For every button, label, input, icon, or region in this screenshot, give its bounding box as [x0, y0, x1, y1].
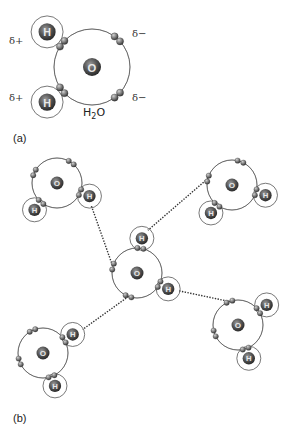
charge-label-h-bottom: δ+ — [9, 92, 23, 103]
electron — [155, 284, 160, 289]
electron — [205, 179, 210, 184]
panel-label-a: (a) — [13, 132, 26, 144]
electron — [71, 162, 76, 167]
water-molecule: OHH — [16, 322, 85, 397]
formula-o: O — [96, 106, 105, 119]
electron — [123, 293, 128, 298]
electron — [61, 90, 68, 97]
panel-label-b: (b) — [13, 412, 26, 424]
water-molecule: OHH — [199, 158, 278, 225]
hydrogen-bond-dotted-line — [91, 206, 112, 266]
oxygen-symbol: O — [134, 269, 140, 278]
electron — [212, 200, 217, 205]
electron — [254, 187, 259, 192]
electron — [158, 279, 163, 284]
oxygen-symbol: O — [229, 181, 235, 190]
electron — [33, 327, 38, 332]
water-molecule: OHH — [31, 16, 130, 118]
hydrogen-symbol: H — [32, 206, 38, 215]
electron — [52, 373, 57, 378]
hydrogen-symbol: H — [263, 191, 269, 200]
electron — [56, 84, 63, 91]
water-molecule: OHH — [23, 158, 102, 222]
charge-label-h-top: δ+ — [9, 35, 23, 46]
electron — [60, 335, 65, 340]
electron — [254, 306, 259, 311]
formula-h: H — [83, 106, 91, 119]
electron — [224, 300, 229, 305]
electron — [31, 173, 36, 178]
electron — [241, 160, 246, 165]
hydrogen-symbol: H — [246, 354, 252, 363]
electron — [33, 167, 38, 172]
oxygen-symbol: O — [54, 179, 60, 188]
hydrogen-symbol: H — [264, 301, 270, 310]
molecules: OHHOHHOHHOHHOHHOHH — [16, 16, 279, 398]
electron — [66, 158, 71, 163]
electron — [141, 246, 146, 251]
water-molecule: OHH — [211, 293, 279, 370]
electron — [240, 347, 245, 352]
electron — [206, 173, 211, 178]
electron — [235, 158, 240, 163]
water-hydrogen-bonding-diagram: OHHOHHOHHOHHOHHOHH δ+ δ+ δ− δ− H2O (a) (… — [0, 0, 301, 431]
electron — [61, 37, 68, 44]
electron — [230, 298, 235, 303]
electron — [110, 267, 115, 272]
hydrogen-symbol: H — [87, 192, 93, 201]
hydrogen-symbol: H — [139, 234, 145, 243]
hydrogen-symbol: H — [165, 285, 171, 294]
hydrogen-symbol: H — [70, 330, 76, 339]
hydrogen-bond-dotted-line — [148, 179, 208, 231]
charge-label-lone-pair-bottom: δ− — [132, 92, 146, 103]
electron — [211, 328, 216, 333]
electron — [129, 295, 134, 300]
oxygen-symbol: O — [235, 321, 241, 330]
electron — [135, 245, 140, 250]
water-molecule: OHH — [110, 226, 181, 301]
hydrogen-symbol: H — [43, 97, 51, 109]
hydrogen-symbol: H — [52, 382, 58, 391]
electron — [63, 340, 68, 345]
oxygen-symbol: O — [88, 62, 97, 74]
electron — [76, 192, 81, 197]
electron — [41, 201, 46, 206]
electron — [46, 375, 51, 380]
electron — [18, 362, 23, 367]
electron — [217, 204, 222, 209]
hydrogen-symbol: H — [43, 26, 51, 38]
electron — [213, 334, 218, 339]
electron — [246, 345, 251, 350]
electron — [111, 94, 118, 101]
electron — [56, 43, 63, 50]
electron — [257, 311, 262, 316]
electron — [116, 38, 123, 45]
molecule-formula-label: H2O — [83, 106, 105, 121]
hydrogen-bond-dotted-line — [83, 296, 129, 329]
electron — [16, 356, 21, 361]
hydrogen-bond-dotted-line — [179, 291, 229, 302]
electron — [78, 187, 83, 192]
hydrogen-symbol: H — [208, 209, 214, 218]
charge-label-lone-pair-top: δ− — [132, 28, 146, 39]
electron — [111, 261, 116, 266]
oxygen-symbol: O — [40, 349, 46, 358]
electron — [27, 329, 32, 334]
electron — [36, 197, 41, 202]
electron — [252, 192, 257, 197]
